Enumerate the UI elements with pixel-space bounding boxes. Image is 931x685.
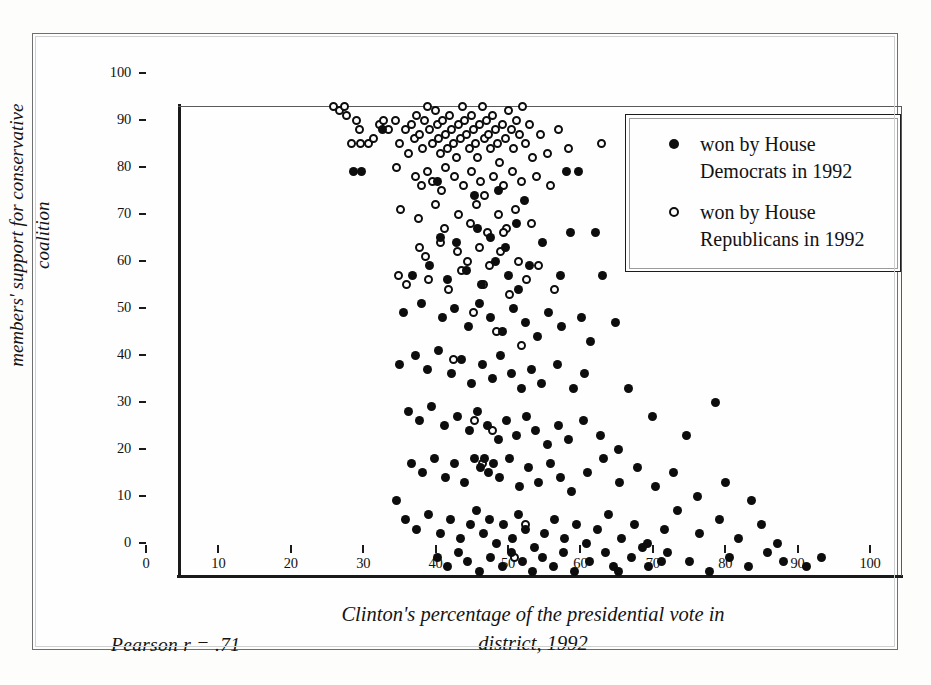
data-point-democrat (705, 567, 714, 576)
data-point-democrat (498, 327, 507, 336)
data-point-democrat (492, 539, 501, 548)
data-point-republican (489, 172, 498, 181)
data-point-democrat (725, 553, 734, 562)
data-point-republican (445, 111, 454, 120)
data-point-republican (536, 130, 545, 139)
data-point-democrat (412, 525, 421, 534)
data-point-democrat (440, 421, 449, 430)
y-tick-label: 60 (97, 252, 131, 269)
data-point-democrat (673, 506, 682, 515)
data-point-democrat (408, 271, 417, 280)
data-point-republican (420, 116, 429, 125)
data-point-republican (478, 102, 487, 111)
data-point-republican (440, 224, 449, 233)
data-point-republican (511, 205, 520, 214)
data-point-republican (550, 285, 559, 294)
data-point-democrat (512, 431, 521, 440)
data-point-republican (450, 172, 459, 181)
data-point-democrat (494, 435, 503, 444)
data-point-democrat (401, 515, 410, 524)
data-point-republican (499, 228, 508, 237)
data-point-democrat (715, 515, 724, 524)
data-point-democrat (495, 473, 504, 482)
data-point-republican (444, 285, 453, 294)
data-point-democrat (466, 520, 475, 529)
data-point-democrat (486, 233, 495, 242)
data-point-republican (554, 125, 563, 134)
data-point-democrat (480, 454, 489, 463)
data-point-democrat (433, 553, 442, 562)
data-point-democrat (604, 510, 613, 519)
data-point-democrat (525, 261, 534, 270)
data-point-democrat (457, 355, 466, 364)
data-point-republican (507, 125, 516, 134)
data-point-republican (517, 341, 526, 350)
data-point-democrat (514, 285, 523, 294)
data-point-democrat (586, 337, 595, 346)
data-point-democrat (411, 351, 420, 360)
y-tick-label: 100 (97, 64, 131, 81)
data-point-republican (471, 139, 480, 148)
x-tick-mark (145, 545, 147, 553)
data-point-democrat (763, 548, 772, 557)
data-point-democrat (527, 365, 536, 374)
data-point-democrat (502, 416, 511, 425)
y-tick-mark (139, 307, 146, 309)
x-tick-label: 0 (128, 555, 164, 572)
data-point-democrat (467, 379, 476, 388)
data-point-democrat (528, 567, 537, 576)
data-point-democrat (395, 360, 404, 369)
data-point-democrat (515, 482, 524, 491)
data-point-republican (493, 139, 502, 148)
data-point-democrat (508, 534, 517, 543)
data-point-democrat (685, 557, 694, 566)
data-point-democrat (560, 534, 569, 543)
data-point-democrat (582, 539, 591, 548)
data-point-democrat (491, 257, 500, 266)
data-point-democrat (465, 426, 474, 435)
data-point-republican (522, 275, 531, 284)
legend-item-republicans: won by House Republicans in 1992 (648, 199, 895, 253)
data-point-republican (431, 200, 440, 209)
data-point-democrat (559, 548, 568, 557)
data-point-democrat (453, 412, 462, 421)
data-point-democrat (427, 402, 436, 411)
data-point-republican (505, 290, 514, 299)
data-point-democrat (479, 529, 488, 538)
data-point-democrat (693, 492, 702, 501)
data-point-democrat (546, 459, 555, 468)
data-point-republican (517, 177, 526, 186)
data-point-democrat (501, 243, 510, 252)
data-point-democrat (494, 186, 503, 195)
data-point-republican (340, 102, 349, 111)
data-point-democrat (533, 332, 542, 341)
y-tick-label: 10 (97, 487, 131, 504)
data-point-republican (423, 167, 432, 176)
data-point-democrat (436, 529, 445, 538)
data-point-republican (459, 181, 468, 190)
data-point-republican (525, 120, 534, 129)
data-point-democrat (553, 360, 562, 369)
x-axis-title: Clinton's percentage of the presidential… (333, 600, 733, 658)
y-tick-label: 90 (97, 111, 131, 128)
data-point-democrat (430, 454, 439, 463)
data-point-democrat (425, 261, 434, 270)
data-point-republican (431, 106, 440, 115)
y-tick-mark (139, 354, 146, 356)
data-point-democrat (530, 543, 539, 552)
data-point-democrat (682, 431, 691, 440)
data-point-republican (441, 163, 450, 172)
data-point-democrat (611, 318, 620, 327)
data-point-republican (454, 210, 463, 219)
data-point-democrat (550, 515, 559, 524)
y-tick-mark (139, 213, 146, 215)
data-point-democrat (593, 525, 602, 534)
data-point-democrat (695, 529, 704, 538)
data-point-republican (546, 181, 555, 190)
data-point-democrat (463, 557, 472, 566)
data-point-democrat (524, 463, 533, 472)
data-point-republican (407, 120, 416, 129)
data-point-democrat (802, 562, 811, 571)
data-point-democrat (518, 557, 527, 566)
data-point-democrat (624, 384, 633, 393)
